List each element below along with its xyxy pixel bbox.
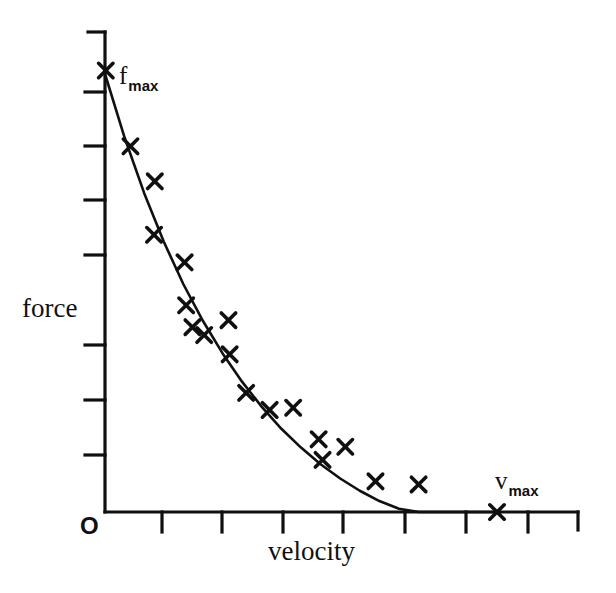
force-velocity-plot [0,0,616,593]
data-point-marker [311,432,325,446]
data-point-marker [147,228,161,242]
y-axis-title: force [22,295,77,322]
data-point-marker [179,298,193,312]
fmax-annotation: fmax [119,63,157,88]
fitted-curve [105,74,497,512]
y-axis-ticks [85,92,105,455]
data-point-marker [286,401,300,415]
origin-label: O [80,514,99,538]
y-axis [88,32,105,512]
vmax-subscript: max [509,482,539,499]
data-point-marker [368,474,382,488]
data-point-marker [221,313,235,327]
data-point-marker [177,255,191,269]
scatter-markers [99,63,505,519]
data-point-marker [338,440,352,454]
vmax-base-symbol: v [495,467,508,494]
data-point-marker [148,174,162,188]
vmax-annotation: vmax [495,468,538,493]
x-axis-title: velocity [268,538,355,565]
figure-canvas: force velocity O fmax vmax [0,0,616,593]
x-axis-ticks [162,512,528,532]
fmax-base-symbol: f [119,62,127,89]
fmax-subscript: max [128,77,158,94]
data-point-marker [411,477,425,491]
